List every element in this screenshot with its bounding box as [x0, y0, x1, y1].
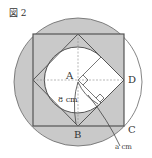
- figure-title: 図 2: [9, 9, 27, 18]
- label-a-length: a cm: [115, 144, 132, 151]
- label-a-point: A: [66, 71, 73, 81]
- label-c-point: C: [128, 125, 136, 135]
- label-d-point: D: [128, 75, 136, 85]
- label-b-point: B: [74, 130, 81, 140]
- label-radius: 8 cm: [58, 96, 78, 104]
